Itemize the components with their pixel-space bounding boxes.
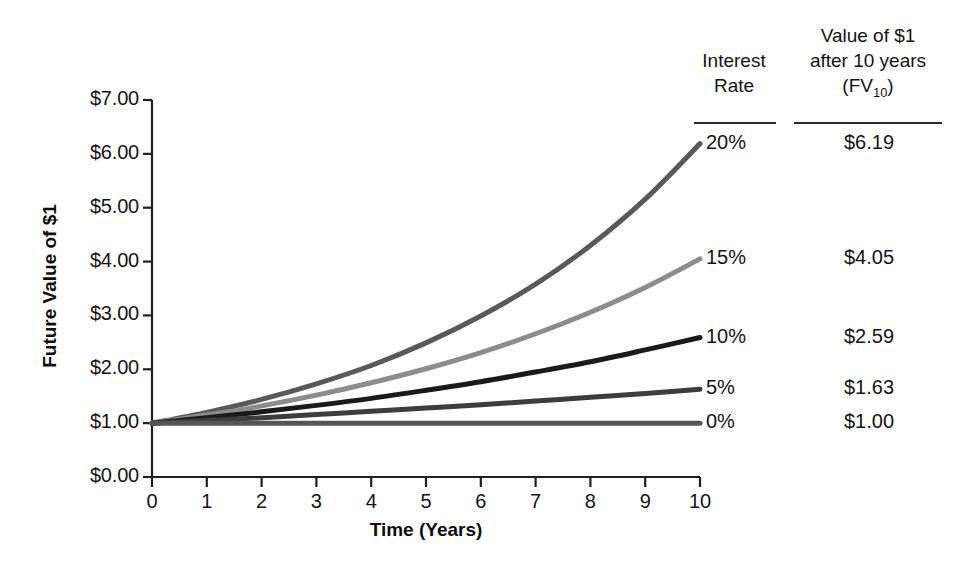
y-axis-title: Future Value of $1 [39,196,61,376]
legend-future-value: $1.63 [794,376,944,399]
legend-rate-label: 15% [706,246,746,269]
legend-future-value: $6.19 [794,131,944,154]
legend-future-value: $2.59 [794,325,944,348]
y-axis-tick-label: $7.00 [47,87,139,110]
legend-header-future-value: Value of $1 after 10 years (FV10) [788,23,948,105]
legend-rate-label: 5% [706,376,735,399]
legend-header-future-value-line3: (FV10) [788,73,948,105]
legend-header-future-value-line1: Value of $1 [788,23,948,48]
legend-rate-label: 0% [706,410,735,433]
legend-header-interest-rate-line2: Rate [688,73,780,98]
x-axis-tick-label: 10 [678,490,722,513]
x-axis-tick-label: 5 [404,490,448,513]
legend-rule-future-value [794,122,942,124]
legend-rule-interest-rate [694,122,776,124]
legend-header-interest-rate: Interest Rate [688,48,780,98]
x-axis-tick-label: 4 [349,490,393,513]
y-axis-tick-label: $1.00 [47,410,139,433]
legend-header-interest-rate-line1: Interest [688,48,780,73]
x-axis-tick-label: 1 [185,490,229,513]
x-axis-tick-label: 0 [130,490,174,513]
legend-future-value: $1.00 [794,410,944,433]
legend-rate-label: 20% [706,131,746,154]
x-axis-tick-label: 8 [568,490,612,513]
x-axis-tick-label: 6 [459,490,503,513]
fv-notation-suffix: ) [887,75,893,96]
series-line-20pct [152,144,700,424]
x-axis-title: Time (Years) [336,519,516,541]
x-axis-tick-label: 9 [623,490,667,513]
y-axis-tick-label: $0.00 [47,464,139,487]
y-axis-tick-label: $6.00 [47,141,139,164]
x-axis-tick-label: 3 [294,490,338,513]
legend-table: Interest Rate Value of $1 after 10 years… [688,10,958,450]
fv-notation-subscript: 10 [873,85,887,100]
legend-header-future-value-line2: after 10 years [788,48,948,73]
legend-future-value: $4.05 [794,246,944,269]
legend-rate-label: 10% [706,325,746,348]
x-axis-tick-label: 2 [240,490,284,513]
fv-notation-prefix: (FV [842,75,873,96]
x-axis-tick-label: 7 [514,490,558,513]
chart-canvas: $0.00$1.00$2.00$3.00$4.00$5.00$6.00$7.00… [0,0,978,578]
